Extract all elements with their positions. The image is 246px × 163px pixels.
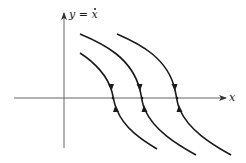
equilibrium-point xyxy=(176,97,179,100)
arrow-down-icon xyxy=(137,84,143,91)
arrow-up-icon xyxy=(113,105,119,112)
y-axis-label: y = x xyxy=(69,9,98,20)
x-axis-label: x xyxy=(229,92,235,103)
equilibrium-point xyxy=(112,97,115,100)
trajectory-3 xyxy=(117,34,231,155)
phase-plane-diagram: y = x x xyxy=(0,0,246,163)
arrow-down-icon xyxy=(172,84,178,91)
arrow-down-icon xyxy=(108,84,114,91)
equilibrium-point xyxy=(141,97,144,100)
phase-plane-svg xyxy=(0,0,246,163)
y-axis-label-dotted-var: x xyxy=(91,9,97,20)
y-axis-label-prefix: y = xyxy=(69,8,91,21)
arrow-up-icon xyxy=(142,105,148,112)
trajectory-1 xyxy=(80,53,157,149)
arrow-up-icon xyxy=(177,105,183,112)
